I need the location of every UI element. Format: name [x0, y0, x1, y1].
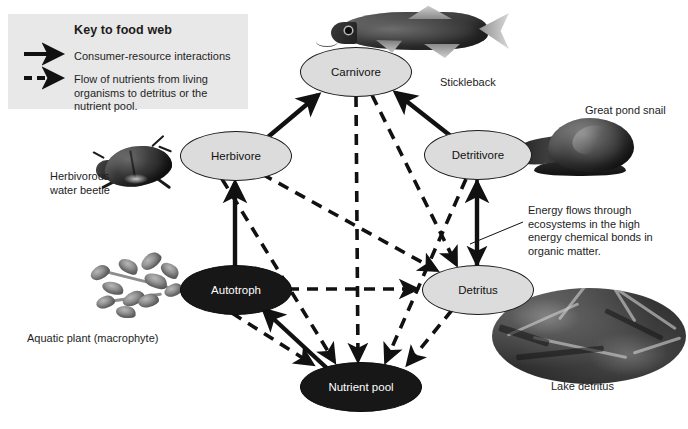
- energy-note-leader-line: [470, 222, 523, 244]
- plant-leaf: [101, 279, 126, 297]
- edge-herbivore-to-detritus: [262, 174, 436, 270]
- node-nutrient-pool[interactable]: Nutrient pool: [300, 362, 422, 412]
- legend-box: Key to food web Consumer-resource intera…: [8, 14, 248, 109]
- edge-detritivore-to-carnivore: [396, 93, 452, 137]
- plant-leaf: [88, 262, 112, 282]
- caption-great-pond-snail: Great pond snail: [585, 104, 666, 118]
- node-herbivore[interactable]: Herbivore: [180, 131, 292, 181]
- annotation-energy-note: Energy flows through ecosystems in the h…: [528, 204, 670, 258]
- node-detritivore[interactable]: Detritivore: [424, 130, 532, 180]
- edge-herbivore-to-carnivore: [268, 95, 318, 137]
- caption-aquatic-plant: Aquatic plant (macrophyte): [27, 332, 158, 346]
- fish-anal-fin: [424, 44, 460, 58]
- caption-herbivorous-water-beetle: Herbivorous water beetle: [50, 170, 116, 197]
- fish-eye: [345, 27, 352, 34]
- edge-nutrientpool-to-autotroph: [264, 310, 330, 371]
- legend-solid-label: Consumer-resource interactions: [74, 50, 231, 64]
- edge-carnivore-to-nutrientpool: [356, 96, 358, 360]
- node-carnivore[interactable]: Carnivore: [300, 47, 412, 97]
- node-detritivore-label: Detritivore: [452, 149, 504, 161]
- fish-tail-fin: [479, 13, 509, 49]
- node-detritus[interactable]: Detritus: [422, 265, 534, 315]
- plant-leaf: [95, 294, 116, 310]
- beetle-highlight: [124, 174, 148, 184]
- node-autotroph-label: Autotroph: [211, 284, 261, 296]
- edge-carnivore-to-detritus: [372, 95, 456, 264]
- detritus-highlight: [588, 332, 668, 376]
- caption-stickleback: Stickleback: [440, 76, 496, 90]
- caption-beetle-line-2: water beetle: [50, 184, 110, 196]
- beetle-leg-upper-left: [92, 151, 105, 159]
- node-herbivore-label: Herbivore: [211, 150, 261, 162]
- plant-leaf: [115, 304, 137, 319]
- caption-lake-detritus: Lake detritus: [551, 380, 614, 394]
- node-nutrient-pool-label: Nutrient pool: [328, 381, 393, 393]
- node-autotroph[interactable]: Autotroph: [180, 265, 292, 315]
- fish-barbel-upper: [316, 36, 338, 47]
- edge-detritus-to-nutrientpool: [408, 310, 452, 364]
- caption-beetle-line-1: Herbivorous: [50, 170, 109, 182]
- food-web-diagram: Carnivore Herbivore Detritivore Autotrop…: [0, 0, 688, 429]
- node-detritus-label: Detritus: [458, 284, 498, 296]
- node-carnivore-label: Carnivore: [331, 66, 381, 78]
- legend-dashed-label: Flow of nutrients from living organisms …: [74, 73, 240, 114]
- aquatic-plant-photo: [86, 248, 190, 322]
- edge-autotroph-to-nutrientpool: [232, 313, 312, 364]
